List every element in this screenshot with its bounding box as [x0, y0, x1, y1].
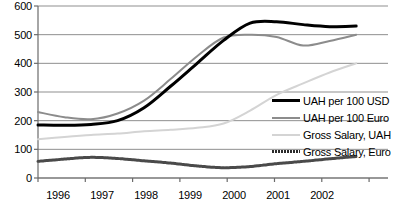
y-axis-tick-600: 600 [2, 1, 32, 12]
x-axis-tick-1996: 1996 [38, 190, 78, 201]
x-axis-tick-1997: 1997 [82, 190, 122, 201]
legend-item-gross-salary-uah: Gross Salary, UAH [272, 126, 396, 143]
legend-swatch-gross-salary-uah [272, 129, 300, 141]
legend-item-gross-salary-euro: Gross Salary, Euro [272, 143, 396, 160]
y-axis-tick-500: 500 [2, 30, 32, 41]
legend-label-uah-per-100-euro: UAH per 100 Euro [303, 112, 389, 124]
y-axis-tick-400: 400 [2, 58, 32, 69]
y-axis-tick-200: 200 [2, 116, 32, 127]
legend-item-uah-per-100-usd: UAH per 100 USD [272, 92, 396, 109]
y-axis-tick-100: 100 [2, 144, 32, 155]
x-axis-tick-2001: 2001 [258, 190, 298, 201]
chart-container: 600 500 400 300 200 100 0 1996 1997 1998… [0, 0, 396, 213]
legend-swatch-uah-per-100-usd [272, 95, 300, 107]
y-axis-tick-300: 300 [2, 87, 32, 98]
chart-legend: UAH per 100 USD UAH per 100 Euro Gross S… [272, 92, 396, 160]
legend-label-uah-per-100-usd: UAH per 100 USD [303, 95, 389, 107]
y-axis-tick-0: 0 [2, 173, 32, 184]
legend-swatch-uah-per-100-euro [272, 112, 300, 124]
legend-label-gross-salary-uah: Gross Salary, UAH [303, 129, 391, 141]
x-axis-tick-2002: 2002 [302, 190, 342, 201]
legend-item-uah-per-100-euro: UAH per 100 Euro [272, 109, 396, 126]
x-axis-tick-1999: 1999 [170, 190, 210, 201]
x-axis-tick-1998: 1998 [126, 190, 166, 201]
legend-label-gross-salary-euro: Gross Salary, Euro [303, 146, 391, 158]
legend-swatch-gross-salary-euro [272, 146, 300, 158]
x-axis-tick-2000: 2000 [214, 190, 254, 201]
